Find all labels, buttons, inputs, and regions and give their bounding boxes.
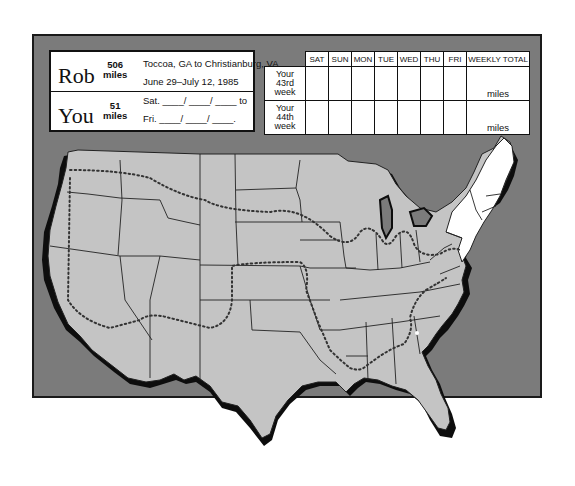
cell-43-tue[interactable] xyxy=(375,67,398,101)
rob-row: Rob 506 miles Toccoa, GA to Christianbur… xyxy=(51,52,253,92)
col-weekly-total: WEEKLY TOTAL xyxy=(467,52,530,67)
rob-route: Toccoa, GA to Christianburg, VA xyxy=(143,58,279,69)
cell-44-wed[interactable] xyxy=(398,101,421,135)
rob-dates: June 29–July 12, 1985 xyxy=(143,76,239,87)
mileage-card: Rob 506 miles Toccoa, GA to Christianbur… xyxy=(49,50,255,132)
table-row: Your 44th week miles xyxy=(265,101,530,135)
rob-miles: 506 miles xyxy=(103,60,127,80)
cell-43-thu[interactable] xyxy=(421,67,444,101)
col-fri: FRI xyxy=(444,52,467,67)
table-corner xyxy=(265,52,306,67)
you-start-date-field[interactable]: Sat. ____/ ____/ ____ to xyxy=(143,95,247,106)
cell-44-mon[interactable] xyxy=(352,101,375,135)
col-tue: TUE xyxy=(375,52,398,67)
toccoa-marker xyxy=(415,331,419,335)
table-header-row: SAT SUN MON TUE WED THU FRI WEEKLY TOTAL xyxy=(265,52,530,67)
cell-44-fri[interactable] xyxy=(444,101,467,135)
col-sat: SAT xyxy=(306,52,329,67)
cell-43-fri[interactable] xyxy=(444,67,467,101)
cell-43-sun[interactable] xyxy=(329,67,352,101)
row-label-44th-week: Your 44th week xyxy=(265,101,306,135)
you-miles: 51 miles xyxy=(103,101,127,121)
cell-44-tue[interactable] xyxy=(375,101,398,135)
cell-44-sun[interactable] xyxy=(329,101,352,135)
cell-43-sat[interactable] xyxy=(306,67,329,101)
you-name: You xyxy=(58,103,94,129)
row-label-43rd-week: Your 43rd week xyxy=(265,67,306,101)
cell-44-sat[interactable] xyxy=(306,101,329,135)
cell-43-mon[interactable] xyxy=(352,67,375,101)
weekly-log-table: SAT SUN MON TUE WED THU FRI WEEKLY TOTAL… xyxy=(264,51,530,135)
rob-name: Rob xyxy=(58,63,95,89)
cell-44-thu[interactable] xyxy=(421,101,444,135)
col-wed: WED xyxy=(398,52,421,67)
you-row: You 51 miles Sat. ____/ ____/ ____ to Fr… xyxy=(51,92,253,131)
col-sun: SUN xyxy=(329,52,352,67)
cell-43-total[interactable]: miles xyxy=(467,67,530,101)
cell-44-total[interactable]: miles xyxy=(467,101,530,135)
table-row: Your 43rd week miles xyxy=(265,67,530,101)
col-thu: THU xyxy=(421,52,444,67)
col-mon: MON xyxy=(352,52,375,67)
you-end-date-field[interactable]: Fri. ____/ ____/ ____. xyxy=(143,113,236,124)
cell-43-wed[interactable] xyxy=(398,67,421,101)
